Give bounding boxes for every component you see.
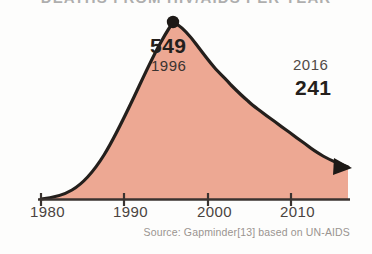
x-tick-label-2010: 2010	[280, 203, 315, 220]
chart-container: DEATHS FROM HIV/AIDS PER YEAR 549 1996 2…	[0, 0, 372, 254]
area-fill	[41, 23, 348, 199]
x-tick-label-1980: 1980	[30, 203, 65, 220]
x-tick-label-2000: 2000	[197, 203, 232, 220]
source-attribution: Source: Gapminder[13] based on UN-AIDS	[144, 226, 350, 238]
peak-marker-dot	[167, 16, 179, 28]
end-year-label: 2016	[293, 56, 328, 73]
peak-value-label: 549	[150, 34, 187, 58]
x-tick-label-1990: 1990	[113, 203, 148, 220]
peak-year-label: 1996	[151, 57, 186, 74]
end-value-label: 241	[295, 76, 332, 100]
